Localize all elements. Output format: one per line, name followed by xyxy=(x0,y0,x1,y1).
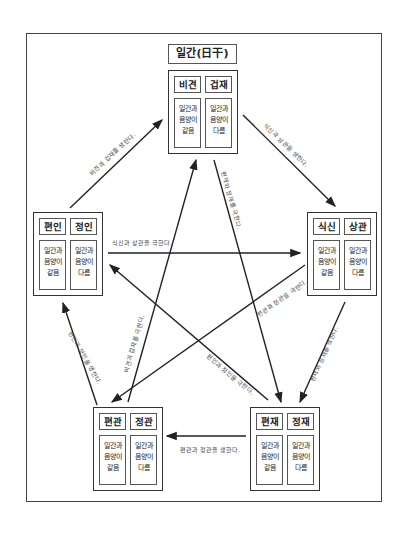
node-label: 식신 xyxy=(313,218,340,235)
node-desc: 일간과 음양이 같음 xyxy=(39,240,66,290)
node-pyeonjae-jeongjae: 편재 정재 일간과 음양이 같음 일간과 음양이 다름 xyxy=(250,407,320,491)
svg-text:식신과 상관을 극한다.: 식신과 상관을 극한다. xyxy=(112,239,172,247)
node-bigyeon-geopjae: 비견 겁재 일간과 음양이 같음 일간과 음양이 다름 xyxy=(168,70,238,154)
node-desc: 일간과 음양이 같음 xyxy=(99,435,126,485)
arrow-right-to-bottomleft xyxy=(112,265,305,402)
node-pyeongwan-jeonggwan: 편관 정관 일간과 음양이 같음 일간과 음양이 다름 xyxy=(93,407,163,491)
node-label: 정재 xyxy=(287,413,314,430)
svg-text:편인과 정인을 극한다.: 편인과 정인을 극한다. xyxy=(205,352,256,397)
node-desc: 일간과 음양이 다름 xyxy=(70,240,97,290)
node-desc: 일간과 음양이 다름 xyxy=(130,435,157,485)
node-desc: 일간과 음양이 같음 xyxy=(174,98,201,148)
node-label: 정인 xyxy=(70,218,97,235)
svg-text:편재와 정재를 생한다.: 편재와 정재를 생한다. xyxy=(309,325,341,383)
node-desc: 일간과 음양이 다름 xyxy=(287,435,314,485)
svg-text:비견과 겁재를 생한다.: 비견과 겁재를 생한다. xyxy=(88,131,137,178)
node-pyeonin-jeongin: 편인 정인 일간과 음양이 같음 일간과 음양이 다름 xyxy=(33,212,103,296)
node-label: 편재 xyxy=(256,413,283,430)
arrow-left-to-top xyxy=(70,120,162,208)
node-label: 비견 xyxy=(174,76,201,93)
node-label: 편인 xyxy=(39,218,66,235)
node-desc: 일간과 음양이 같음 xyxy=(313,240,340,290)
node-siksin-sanggwan: 식신 상관 일간과 음양이 같음 일간과 음양이 다름 xyxy=(307,212,377,296)
svg-text:편관과 정관을 극한다.: 편관과 정관을 극한다. xyxy=(256,278,310,319)
node-label: 편관 xyxy=(99,413,126,430)
node-label: 정관 xyxy=(130,413,157,430)
svg-text:편관과 정관을 생한다.: 편관과 정관을 생한다. xyxy=(180,446,240,454)
node-desc: 일간과 음양이 다름 xyxy=(205,98,232,148)
arrow-top-to-right xyxy=(243,115,335,206)
node-desc: 일간과 음양이 다름 xyxy=(344,240,371,290)
node-desc: 일간과 음양이 같음 xyxy=(256,435,283,485)
node-label: 상관 xyxy=(344,218,371,235)
node-label: 겁재 xyxy=(205,76,232,93)
svg-text:비견과 겁재를 극한다.: 비견과 겁재를 극한다. xyxy=(122,314,146,374)
svg-text:식신과 상관을 생한다.: 식신과 상관을 생한다. xyxy=(262,122,311,169)
svg-text:편인과 정인을 생한다.: 편인과 정인을 생한다. xyxy=(66,330,103,386)
